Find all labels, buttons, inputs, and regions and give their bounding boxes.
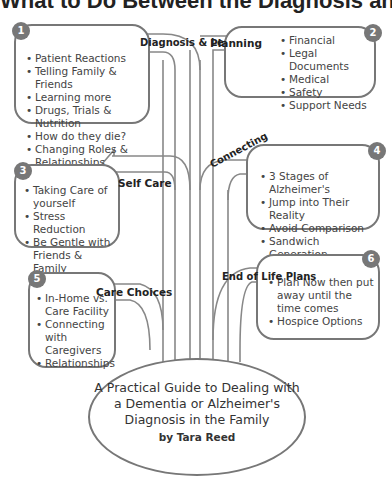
list-item: Connecting with Caregivers — [36, 318, 116, 357]
list-item: Stress Reduction — [24, 210, 116, 236]
list-item: Patient Reactions — [26, 52, 148, 65]
branch-label-5: Care Choices — [96, 286, 172, 298]
branch-box-4: 3 Stages of Alzheimer's Jump into Their … — [246, 144, 380, 230]
branch-1-items: Patient Reactions Telling Family & Frien… — [26, 52, 148, 169]
branch-4-items: 3 Stages of Alzheimer's Jump into Their … — [260, 170, 378, 261]
list-item: Safety — [280, 86, 374, 99]
branch-label-2: Planning — [210, 37, 262, 49]
list-item: How do they die? — [26, 130, 148, 143]
list-item: Jump into Their Reality — [260, 196, 378, 222]
branch-5-items: In-Home vs. Care Facility Connecting wit… — [36, 292, 116, 370]
list-item: Medical — [280, 73, 374, 86]
list-item: 3 Stages of Alzheimer's — [260, 170, 378, 196]
branch-box-1: Patient Reactions Telling Family & Frien… — [14, 24, 150, 124]
branch-2-items: Financial Legal Documents Medical Safety… — [280, 34, 374, 112]
branch-label-3: Self Care — [118, 177, 172, 189]
badge-1: 1 — [12, 22, 30, 40]
guide-ellipse: A Practical Guide to Dealing with a Deme… — [88, 358, 306, 476]
badge-6: 6 — [362, 250, 380, 268]
list-item: Support Needs — [280, 99, 374, 112]
list-item: Taking Care of yourself — [24, 184, 116, 210]
list-item: Learning more — [26, 91, 148, 104]
branch-box-6: Plan Now then put away until the time co… — [256, 254, 380, 340]
author-credit: by Tara Reed — [90, 431, 304, 443]
list-item: Hospice Options — [268, 315, 378, 328]
branch-3-items: Taking Care of yourself Stress Reduction… — [24, 184, 116, 275]
badge-5: 5 — [28, 270, 46, 288]
list-item: Relationships — [36, 357, 116, 370]
badge-2: 2 — [364, 24, 382, 42]
list-item: Legal Documents — [280, 47, 374, 73]
branch-label-6: End of Life Plans — [222, 271, 316, 282]
list-item: Telling Family & Friends — [26, 65, 148, 91]
badge-3: 3 — [14, 162, 32, 180]
list-item: Avoid Comparison — [260, 222, 378, 235]
list-item: Drugs, Trials & Nutrition — [26, 104, 148, 130]
badge-4: 4 — [368, 142, 386, 160]
guide-title: A Practical Guide to Dealing with a Deme… — [90, 380, 304, 428]
branch-6-items: Plan Now then put away until the time co… — [268, 276, 378, 328]
list-item: Financial — [280, 34, 374, 47]
